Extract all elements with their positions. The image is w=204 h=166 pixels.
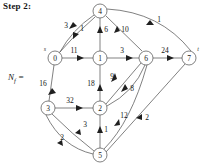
- edge-label-7-5: 2: [145, 113, 149, 122]
- figure-root: Step 2: Nf =: [0, 0, 204, 166]
- arrowhead-5-6: [114, 119, 120, 126]
- node-0-label: 0: [53, 54, 57, 63]
- node-4[interactable]: 4: [93, 4, 107, 18]
- edge-label-4-6: 10: [121, 25, 129, 34]
- edge-label-1-6: 3: [120, 46, 124, 55]
- edge-label-6-7: 24: [161, 46, 169, 55]
- node-5[interactable]: 5: [93, 148, 107, 162]
- edge-5-3-a: [52, 114, 94, 151]
- edge-label-4-7: 1: [157, 15, 161, 24]
- node-3[interactable]: 3: [41, 101, 55, 115]
- arrowhead-1-4: [97, 26, 103, 33]
- arrowhead-2-1: [97, 84, 103, 91]
- arrowhead-0-3: [48, 88, 56, 95]
- arrowhead-0-1: [77, 55, 84, 61]
- arrowhead-4-0: [73, 32, 79, 39]
- edge-0-3: [49, 65, 54, 101]
- node-7[interactable]: 7: [182, 51, 196, 65]
- arrowheads-layer: [48, 20, 174, 146]
- edge-label-2-6: 8: [130, 84, 134, 93]
- sink-label: t: [197, 46, 199, 52]
- arrowhead-1-6: [126, 55, 133, 61]
- edge-label-1-4: 6: [104, 25, 108, 34]
- edge-4-7: [107, 9, 191, 51]
- edge-label-5-3-b: 2: [60, 133, 64, 142]
- node-3-label: 3: [46, 104, 50, 113]
- edge-label-0-4: 3: [64, 21, 68, 30]
- node-2-label: 2: [98, 104, 102, 113]
- node-0[interactable]: 0: [48, 51, 62, 65]
- node-1-label: 1: [98, 54, 102, 63]
- edge-label-5-3-a: 3: [83, 120, 87, 129]
- node-2[interactable]: 2: [93, 101, 107, 115]
- arrowhead-6-7: [167, 55, 174, 61]
- edge-label-0-3: 16: [39, 79, 47, 88]
- edge-label-0-1: 11: [70, 46, 77, 55]
- arrowhead-4-7: [146, 20, 154, 25]
- node-4-label: 4: [98, 7, 102, 16]
- node-6[interactable]: 6: [139, 51, 153, 65]
- node-5-label: 5: [98, 151, 102, 160]
- arrowhead-5-3-a: [75, 129, 81, 135]
- arrowhead-5-2: [97, 126, 103, 133]
- edge-label-3-2: 32: [66, 96, 74, 105]
- flow-network-graph: 3 1 11 6 10 1 3 24 16 18 9 8 32 12 2 3 2…: [0, 0, 204, 166]
- arrowhead-0-4: [69, 22, 77, 29]
- edge-labels-layer: 3 1 11 6 10 1 3 24 16 18 9 8 32 12 2 3 2…: [39, 15, 169, 142]
- edge-7-5: [106, 64, 185, 152]
- node-1[interactable]: 1: [93, 51, 107, 65]
- arrowhead-4-6: [114, 26, 120, 33]
- edge-label-6-2: 9: [110, 72, 114, 81]
- arrowhead-3-2: [76, 105, 83, 111]
- edge-label-5-6: 12: [120, 111, 128, 120]
- edge-label-4-0: 1: [80, 24, 84, 33]
- source-label: s: [44, 46, 47, 52]
- edge-label-2-1: 18: [87, 79, 95, 88]
- edge-label-5-2: 1: [104, 125, 108, 134]
- node-6-label: 6: [144, 54, 148, 63]
- node-7-label: 7: [187, 54, 191, 63]
